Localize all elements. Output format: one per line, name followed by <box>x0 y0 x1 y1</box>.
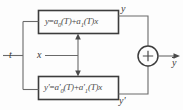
lower-eq-term2-var: x <box>98 82 102 92</box>
upper-block-equation: y=a0(T)+a1(T)x <box>45 17 98 28</box>
upper-eq-term1-arg: (T) <box>61 16 71 26</box>
lower-block-equation: y'=a'0(T)+a'1(T)x <box>44 83 102 94</box>
lower-block-output-label: y' <box>119 96 126 106</box>
upper-block-output-label: y <box>121 4 125 14</box>
wire-lower-output-to-sum <box>119 66 149 94</box>
arrow-x-into-lower-block <box>75 71 81 77</box>
upper-eq-term2-arg: (T) <box>84 16 94 26</box>
output-label-text: y <box>172 58 176 68</box>
upper-eq-term2-var: x <box>94 16 98 26</box>
input-label-t: t <box>9 50 12 60</box>
lower-eq-term1-arg: (T) <box>64 82 74 92</box>
wire-upper-output-to-sum <box>119 16 149 46</box>
block-diagram: t x y=a0(T)+a1(T)x y'=a'0(T)+a'1(T)x y y… <box>0 0 183 110</box>
lower-eq-term2-arg: (T) <box>88 82 98 92</box>
input-label-x: x <box>37 50 41 60</box>
diagram-output-label: y <box>172 58 176 68</box>
arrow-x-into-upper-block <box>75 34 81 40</box>
